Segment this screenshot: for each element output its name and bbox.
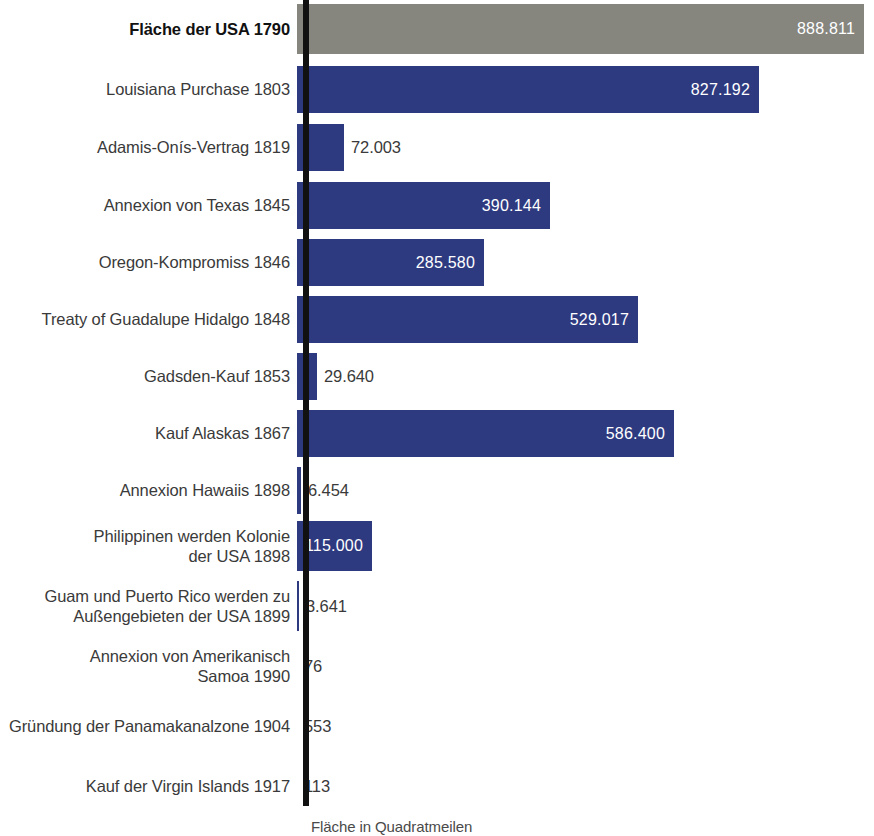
bar-area: 76: [297, 641, 874, 691]
bar-area: 586.400: [297, 410, 874, 457]
bar-area: 6.454: [297, 467, 874, 514]
chart-row: Philippinen werden Kolonie der USA 18981…: [0, 521, 874, 571]
bar-area: 29.640: [297, 353, 874, 400]
chart-row: Annexion Hawaiis 18986.454: [0, 467, 874, 514]
row-label: Philippinen werden Kolonie der USA 1898: [0, 526, 297, 566]
chart-row: Adamis-Onís-Vertrag 181972.003: [0, 124, 874, 171]
bar-value-label: 586.400: [606, 425, 674, 443]
bar-area: 3.641: [297, 581, 874, 631]
bar-area: 553: [297, 703, 874, 750]
row-label: Treaty of Guadalupe Hidalgo 1848: [0, 309, 297, 329]
bar-area: 285.580: [297, 239, 874, 286]
bar-area: 72.003: [297, 124, 874, 171]
bar-area: 888.811: [297, 4, 874, 54]
chart-row: Annexion von Texas 1845390.144: [0, 182, 874, 229]
chart-row: Kauf der Virgin Islands 1917113: [0, 763, 874, 810]
vertical-axis-line: [303, 0, 309, 806]
bar[interactable]: 529.017: [297, 296, 638, 343]
bar[interactable]: 586.400: [297, 410, 674, 457]
bar[interactable]: [297, 467, 301, 514]
chart-row: Louisiana Purchase 1803827.192: [0, 66, 874, 113]
bar-value-label: 115.000: [305, 537, 372, 555]
chart-row: Fläche der USA 1790888.811: [0, 4, 874, 54]
bar-value-label: 72.003: [344, 138, 401, 157]
bar-value-label: 113: [297, 777, 330, 796]
bar-area: 827.192: [297, 66, 874, 113]
bar[interactable]: 390.144: [297, 182, 550, 229]
bar-value-label: 390.144: [482, 197, 550, 215]
chart-row: Oregon-Kompromiss 1846285.580: [0, 239, 874, 286]
axis-caption: Fläche in Quadratmeilen: [311, 818, 472, 835]
bar-area: 390.144: [297, 182, 874, 229]
bar[interactable]: 285.580: [297, 239, 484, 286]
chart-row: Gründung der Panamakanalzone 1904553: [0, 703, 874, 750]
bar-value-label: 827.192: [691, 81, 759, 99]
row-label: Guam und Puerto Rico werden zu Außengebi…: [0, 586, 297, 626]
row-label: Gadsden-Kauf 1853: [0, 366, 297, 386]
row-label: Gründung der Panamakanalzone 1904: [0, 716, 297, 736]
bar-value-label: 29.640: [317, 367, 374, 386]
row-label: Adamis-Onís-Vertrag 1819: [0, 137, 297, 157]
chart-row: Gadsden-Kauf 185329.640: [0, 353, 874, 400]
row-label: Kauf Alaskas 1867: [0, 423, 297, 443]
chart-row: Annexion von Amerikanisch Samoa 199076: [0, 641, 874, 691]
row-label: Annexion von Amerikanisch Samoa 1990: [0, 646, 297, 686]
bar-value-label: 76: [297, 657, 322, 676]
chart-row: Treaty of Guadalupe Hidalgo 1848529.017: [0, 296, 874, 343]
bar[interactable]: 888.811: [297, 4, 864, 54]
bar-chart: Fläche der USA 1790888.811Louisiana Purc…: [0, 0, 874, 836]
bar-area: 113: [297, 763, 874, 810]
row-label: Fläche der USA 1790: [0, 19, 297, 39]
row-label: Annexion Hawaiis 1898: [0, 480, 297, 500]
row-label: Annexion von Texas 1845: [0, 195, 297, 215]
row-label: Kauf der Virgin Islands 1917: [0, 776, 297, 796]
bar-area: 115.000: [297, 521, 874, 571]
row-label: Louisiana Purchase 1803: [0, 79, 297, 99]
chart-row: Kauf Alaskas 1867586.400: [0, 410, 874, 457]
chart-row: Guam und Puerto Rico werden zu Außengebi…: [0, 581, 874, 631]
row-label: Oregon-Kompromiss 1846: [0, 252, 297, 272]
bar-area: 529.017: [297, 296, 874, 343]
bar[interactable]: 827.192: [297, 66, 759, 113]
bar-value-label: 529.017: [570, 311, 638, 329]
bar-value-label: 888.811: [797, 20, 864, 38]
bar[interactable]: [297, 581, 299, 631]
bar-value-label: 285.580: [416, 254, 484, 272]
